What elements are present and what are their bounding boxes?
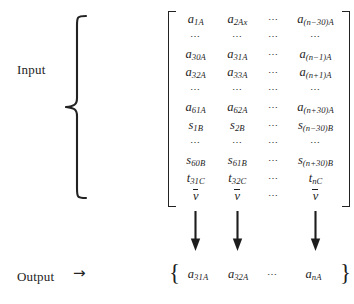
matrix-ellipsis-r7-c2: ⋯ [268,138,279,148]
matrix-ellipsis-r1-c3: ⋯ [310,32,321,42]
down-arrow-svg [232,210,243,252]
matrix-cells: a1Aa2Ax⋯a(n−30)A⋯⋯⋯⋯a30Aa31A⋯a(n−1)Aa32A… [175,11,343,205]
symbol-subscript: 61B [233,158,247,168]
output-label: Output [17,269,54,285]
symbol-subscript: 60B [191,158,205,168]
matrix-cell-r6-c0: s1B [188,119,203,133]
matrix-cell-r5-c3: a(n+30)A [297,101,334,115]
matrix-ellipsis-r1-c2: ⋯ [268,32,279,42]
matrix-ellipsis-r7-c0: ⋯ [190,138,201,148]
open-curly-brace: { [169,261,178,287]
matrix-cell-r10-c1: v [235,190,241,203]
matrix-ellipsis-r3-c2: ⋯ [268,68,279,78]
left-curly-brace-icon [62,14,90,200]
output-set: { } a31Aa32A⋯anA [168,262,350,288]
matrix-ellipsis-r4-c0: ⋯ [190,85,201,95]
output-cell-r0-c3: anA [306,268,322,282]
symbol-subscript: 31C [190,176,205,186]
matrix-cell-r8-c3: s(n+30)B [298,154,333,168]
down-arrow-icon-1 [232,210,243,256]
output-items: a31Aa32A⋯anA [178,262,340,288]
down-arrow-svg [310,210,321,252]
symbol-subscript: 31A [194,272,208,282]
matrix-ellipsis-r5-c2: ⋯ [268,103,279,113]
matrix-ellipsis-r0-c2: ⋯ [268,15,279,25]
matrix-ellipsis-r1-c0: ⋯ [190,32,201,42]
output-ellipsis-r0-c2: ⋯ [267,270,278,280]
matrix-ellipsis-r7-c3: ⋯ [310,138,321,148]
matrix-cell-r8-c1: s61B [228,154,247,168]
matrix-cell-r6-c1: s2B [230,119,245,133]
symbol-subscript: (n−1)A [306,52,332,62]
matrix-ellipsis-r9-c2: ⋯ [268,174,279,184]
matrix-cell-r0-c3: a(n−30)A [297,13,334,27]
matrix-cell-r2-c1: a31A [227,48,247,62]
matrix-cell-r6-c3: s(n−30)B [298,119,333,133]
matrix-cell-r0-c1: a2Ax [227,13,247,27]
matrix-ellipsis-r10-c2: ⋯ [268,191,279,201]
matrix-ellipsis-r4-c2: ⋯ [268,85,279,95]
symbol-subscript: (n+1)A [306,70,332,80]
matrix-ellipsis-r8-c2: ⋯ [268,156,279,166]
symbol-subscript: 31A [233,52,247,62]
matrix-cell-r3-c1: a33A [227,66,247,80]
matrix-cell-r9-c1: t32C [228,172,246,186]
matrix-cell-r8-c0: s60B [186,154,205,168]
matrix-cell-r10-c3: v [313,190,319,203]
symbol-subscript: 2Ax [234,17,248,27]
matrix-cell-r3-c3: a(n+1)A [299,66,331,80]
matrix-ellipsis-r4-c3: ⋯ [310,85,321,95]
matrix-bracket-right-icon [342,11,350,207]
symbol-base: v [193,190,199,203]
symbol-base: v [313,190,319,203]
symbol-subscript: 62A [233,105,247,115]
matrix-cell-r9-c3: tnC [309,172,323,186]
symbol-subscript: 30A [192,52,206,62]
down-arrow-icon-3 [310,210,321,256]
matrix-cell-r5-c1: a62A [227,101,247,115]
symbol-subscript: nA [312,272,322,282]
symbol-subscript: 32C [232,176,247,186]
symbol-subscript: 1B [193,123,203,133]
symbol-subscript: 32A [192,70,206,80]
input-label: Input [17,62,45,78]
matrix-ellipsis-r7-c1: ⋯ [232,138,243,148]
down-arrow-row [175,210,343,254]
symbol-base: v [235,190,241,203]
matrix-ellipsis-r6-c2: ⋯ [268,121,279,131]
matrix-ellipsis-r2-c2: ⋯ [268,50,279,60]
symbol-subscript: nC [312,176,322,186]
matrix-cell-r5-c0: a61A [186,101,206,115]
symbol-subscript: 2B [235,123,245,133]
input-matrix: a1Aa2Ax⋯a(n−30)A⋯⋯⋯⋯a30Aa31A⋯a(n−1)Aa32A… [168,11,350,205]
down-arrow-icon-0 [190,210,201,256]
matrix-ellipsis-r4-c1: ⋯ [232,85,243,95]
symbol-subscript: 32A [234,272,248,282]
symbol-subscript: (n−30)B [303,123,333,133]
symbol-subscript: (n+30)B [303,158,333,168]
arrow-spacer-2 [273,210,274,211]
matrix-cell-r0-c0: a1A [188,13,204,27]
output-cell-r0-c1: a32A [228,268,248,282]
matrix-cell-r10-c0: v [193,190,199,203]
matrix-cell-r2-c0: a30A [186,48,206,62]
matrix-cell-r9-c0: t31C [187,172,205,186]
matrix-cell-r3-c0: a32A [186,66,206,80]
symbol-subscript: 33A [233,70,247,80]
matrix-cell-r2-c3: a(n−1)A [299,48,331,62]
input-output-matrix-diagram: Input a1Aa2Ax⋯a(n−30)A⋯⋯⋯⋯a30Aa31A⋯a(n−1… [0,0,354,304]
symbol-subscript: (n−30)A [303,17,333,27]
right-arrow-icon: → [73,266,86,281]
symbol-subscript: (n+30)A [303,105,333,115]
symbol-subscript: 1A [194,17,204,27]
down-arrow-svg [190,210,201,252]
output-cell-r0-c0: a31A [188,268,208,282]
symbol-subscript: 61A [192,105,206,115]
close-curly-brace: } [340,261,349,287]
matrix-ellipsis-r1-c1: ⋯ [232,32,243,42]
left-curly-brace-svg [62,14,90,200]
